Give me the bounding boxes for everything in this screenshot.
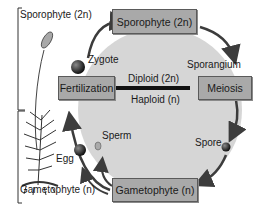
sporophyte-stalk [35, 50, 44, 150]
gametophyte-plant [22, 110, 58, 195]
zygote-label: Zygote [88, 54, 119, 65]
ploidy-divider [113, 86, 190, 90]
spore-icon [222, 143, 231, 152]
sporophyte-capsule [39, 30, 55, 50]
egg-icon [74, 144, 86, 156]
diploid-label: Diploid (2n) [128, 73, 179, 84]
life-cycle-diagram: Sporophyte (2n) Gametophyte (n) Sporophy… [0, 0, 254, 211]
fertilization-box: Fertilization [58, 76, 115, 100]
egg-label: Egg [56, 153, 74, 164]
sporophyte-bracket-label: Sporophyte (2n) [20, 9, 92, 20]
sporangium-label: Sporangium [187, 59, 241, 70]
sperm-label: Sperm [102, 130, 131, 141]
gametophyte-box: Gametophyte (n) [112, 178, 198, 202]
haploid-label: Haploid (n) [131, 94, 180, 105]
sporophyte-bracket [18, 8, 25, 110]
zygote-icon [71, 60, 85, 74]
spore-label: Spore [195, 137, 222, 148]
sperm-icon [95, 142, 101, 150]
sporophyte-box: Sporophyte (2n) [112, 9, 197, 34]
meiosis-box: Meiosis [198, 76, 252, 100]
gametophyte-bracket-label: Gametophyte (n) [20, 184, 95, 195]
